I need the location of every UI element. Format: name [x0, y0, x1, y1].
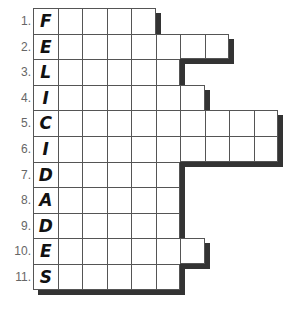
row-number: 7.: [4, 168, 31, 182]
given-letter: L: [34, 62, 58, 82]
answer-cell[interactable]: [58, 85, 83, 111]
answer-cell[interactable]: [58, 34, 83, 60]
answer-cell[interactable]: [131, 136, 156, 162]
answer-cell[interactable]: [131, 34, 156, 60]
answer-cell[interactable]: [82, 8, 107, 34]
letter-cell: D: [33, 162, 58, 188]
given-letter: E: [34, 37, 58, 57]
answer-cell[interactable]: [58, 110, 83, 136]
answer-cell[interactable]: [180, 110, 205, 136]
answer-cell[interactable]: [107, 110, 132, 136]
answer-cell[interactable]: [156, 136, 181, 162]
answer-cell[interactable]: [254, 136, 279, 162]
answer-cell[interactable]: [180, 85, 205, 111]
given-letter: D: [34, 216, 58, 236]
answer-cell[interactable]: [229, 110, 254, 136]
answer-cell[interactable]: [131, 213, 156, 239]
row-number: 9.: [4, 219, 31, 233]
answer-cell[interactable]: [82, 59, 107, 85]
given-letter: F: [34, 11, 58, 31]
row-number: 4.: [4, 91, 31, 105]
answer-cell[interactable]: [107, 85, 132, 111]
answer-cell[interactable]: [205, 110, 230, 136]
answer-cell[interactable]: [58, 136, 83, 162]
answer-cell[interactable]: [156, 59, 181, 85]
row-number: 5.: [4, 116, 31, 130]
answer-cell[interactable]: [156, 34, 181, 60]
answer-cell[interactable]: [254, 110, 279, 136]
answer-cell[interactable]: [131, 85, 156, 111]
answer-cell[interactable]: [82, 162, 107, 188]
answer-cell[interactable]: [156, 213, 181, 239]
row-number: 8.: [4, 193, 31, 207]
answer-cell[interactable]: [131, 8, 156, 34]
given-letter: S: [34, 267, 58, 287]
answer-cell[interactable]: [131, 162, 156, 188]
answer-cell[interactable]: [131, 110, 156, 136]
answer-cell[interactable]: [82, 110, 107, 136]
answer-cell[interactable]: [107, 264, 132, 290]
answer-cell[interactable]: [107, 136, 132, 162]
row-number: 1.: [4, 14, 31, 28]
letter-cell: A: [33, 187, 58, 213]
answer-cell[interactable]: [180, 136, 205, 162]
answer-cell[interactable]: [58, 187, 83, 213]
row-number: 3.: [4, 65, 31, 79]
given-letter: I: [34, 139, 58, 159]
answer-cell[interactable]: [107, 213, 132, 239]
answer-cell[interactable]: [82, 34, 107, 60]
answer-cell[interactable]: [58, 213, 83, 239]
answer-cell[interactable]: [180, 238, 205, 264]
answer-cell[interactable]: [58, 264, 83, 290]
letter-cell: I: [33, 136, 58, 162]
answer-cell[interactable]: [156, 162, 181, 188]
letter-cell: E: [33, 34, 58, 60]
row-number: 6.: [4, 142, 31, 156]
letter-cell: E: [33, 238, 58, 264]
answer-cell[interactable]: [131, 238, 156, 264]
answer-cell[interactable]: [107, 59, 132, 85]
answer-cell[interactable]: [156, 110, 181, 136]
answer-cell[interactable]: [107, 8, 132, 34]
answer-cell[interactable]: [107, 187, 132, 213]
answer-cell[interactable]: [131, 264, 156, 290]
answer-cell[interactable]: [107, 238, 132, 264]
given-letter: D: [34, 165, 58, 185]
answer-cell[interactable]: [205, 136, 230, 162]
answer-cell[interactable]: [82, 238, 107, 264]
answer-cell[interactable]: [156, 238, 181, 264]
answer-cell[interactable]: [131, 187, 156, 213]
given-letter: E: [34, 241, 58, 261]
answer-cell[interactable]: [156, 264, 181, 290]
answer-cell[interactable]: [131, 59, 156, 85]
answer-cell[interactable]: [229, 136, 254, 162]
given-letter: I: [34, 88, 58, 108]
letter-cell: F: [33, 8, 58, 34]
letter-cell: D: [33, 213, 58, 239]
answer-cell[interactable]: [82, 85, 107, 111]
answer-cell[interactable]: [107, 162, 132, 188]
answer-cell[interactable]: [82, 213, 107, 239]
given-letter: A: [34, 190, 58, 210]
answer-cell[interactable]: [82, 187, 107, 213]
answer-cell[interactable]: [58, 238, 83, 264]
answer-cell[interactable]: [107, 34, 132, 60]
row-number: 10.: [4, 244, 31, 258]
answer-cell[interactable]: [180, 34, 205, 60]
answer-cell[interactable]: [58, 59, 83, 85]
answer-cell[interactable]: [156, 85, 181, 111]
answer-cell[interactable]: [58, 8, 83, 34]
letter-cell: I: [33, 85, 58, 111]
answer-cell[interactable]: [82, 136, 107, 162]
answer-cell[interactable]: [205, 34, 230, 60]
row-number: 2.: [4, 40, 31, 54]
answer-cell[interactable]: [156, 187, 181, 213]
letter-cell: S: [33, 264, 58, 290]
answer-cell[interactable]: [58, 162, 83, 188]
row-number: 11.: [4, 270, 31, 284]
letter-cell: C: [33, 110, 58, 136]
letter-cell: L: [33, 59, 58, 85]
answer-cell[interactable]: [82, 264, 107, 290]
given-letter: C: [34, 113, 58, 133]
